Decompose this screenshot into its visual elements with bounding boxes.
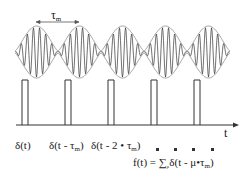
pulse (22, 80, 28, 125)
pulse-label-1: δ(t - τm) (49, 140, 84, 153)
time-axis-label: t (224, 127, 227, 139)
pulse-train-diagram (0, 0, 249, 180)
time-axis (16, 123, 239, 128)
pulse (65, 80, 71, 125)
pulse (194, 80, 200, 125)
pulse-label-0: δ(t) (15, 140, 31, 151)
continuation-dot (211, 148, 214, 151)
pulse-label-2: δ(t - 2 • τm) (91, 140, 140, 153)
pulse-train (22, 80, 200, 125)
continuation-dot (192, 148, 195, 151)
continuation-dot (174, 148, 177, 151)
period-label: τm (51, 9, 61, 23)
pulse (108, 80, 114, 125)
modulated-wave-packets (15, 26, 230, 78)
pulse (151, 80, 157, 125)
continuation-dot (156, 148, 159, 151)
axis-arrowhead-icon (233, 123, 239, 128)
sum-formula: f(t) = ∑μδ(t - μ•τm) (133, 157, 214, 170)
